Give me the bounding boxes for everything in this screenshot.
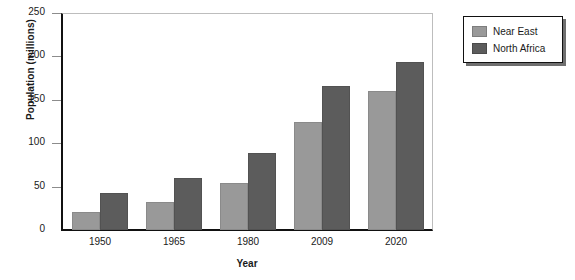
- legend-item-north-africa: North Africa: [472, 40, 556, 57]
- bar: [100, 193, 128, 230]
- legend-swatch-icon: [472, 43, 487, 54]
- bar: [294, 122, 322, 231]
- bar: [248, 153, 276, 230]
- legend-swatch-icon: [472, 26, 487, 37]
- y-axis-tick-label: 0: [39, 223, 45, 234]
- x-axis-title: Year: [61, 258, 433, 269]
- legend-item-near-east: Near East: [472, 23, 556, 40]
- x-axis-tick-label: 1950: [72, 236, 128, 247]
- y-axis-tick-mark: [52, 187, 61, 188]
- bars-layer: [63, 13, 433, 230]
- y-axis-tick-label: 250: [28, 6, 45, 17]
- chart-legend: Near East North Africa: [463, 16, 563, 63]
- bar: [322, 86, 350, 230]
- legend-label: North Africa: [493, 43, 545, 54]
- bar: [174, 178, 202, 230]
- y-axis-tick-label: 50: [34, 180, 45, 191]
- bar-group: [294, 13, 350, 230]
- bar-group: [220, 13, 276, 230]
- bar: [220, 183, 248, 230]
- x-axis-tick-label: 1980: [220, 236, 276, 247]
- y-axis-tick-mark: [52, 143, 61, 144]
- y-axis-tick-label: 150: [28, 93, 45, 104]
- y-axis-tick-mark: [52, 56, 61, 57]
- bar-group: [368, 13, 424, 230]
- bar-group: [72, 13, 128, 230]
- x-axis-tick-label: 2020: [368, 236, 424, 247]
- y-axis-tick-mark: [52, 100, 61, 101]
- bar: [72, 212, 100, 230]
- y-axis-tick-label: 200: [28, 49, 45, 60]
- y-axis-tick-mark: [52, 13, 61, 14]
- legend-label: Near East: [493, 26, 537, 37]
- x-axis-tick-label: 1965: [146, 236, 202, 247]
- bar: [368, 91, 396, 230]
- x-axis-tick-label: 2009: [294, 236, 350, 247]
- y-axis-ticks: 050100150200250: [0, 0, 61, 244]
- y-axis-tick-label: 100: [28, 136, 45, 147]
- bar-chart: Population (millions) 050100150200250 19…: [0, 0, 575, 280]
- bar: [396, 62, 424, 230]
- bar: [146, 202, 174, 230]
- bar-group: [146, 13, 202, 230]
- x-axis-ticks: 19501965198020092020: [63, 236, 433, 252]
